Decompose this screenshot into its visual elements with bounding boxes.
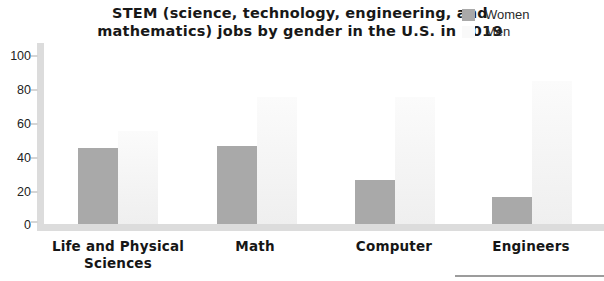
y-tick-mark <box>31 89 38 91</box>
y-tick-label: 100 <box>0 48 31 64</box>
men-swatch-icon <box>462 26 475 38</box>
x-label-math: Math <box>205 238 305 255</box>
men-bar <box>257 97 297 225</box>
women-bar <box>492 197 532 224</box>
legend-item-men: Men <box>462 23 530 40</box>
x-axis-baseline <box>37 224 604 231</box>
y-tick-label: 80 <box>0 82 31 98</box>
y-tick-mark <box>31 55 38 57</box>
women-bar <box>355 180 395 224</box>
y-tick-mark <box>31 191 38 193</box>
y-tick-label: 40 <box>0 150 31 166</box>
legend-item-women: Women <box>462 6 530 23</box>
x-label-engineers: Engineers <box>471 238 591 255</box>
y-tick-label: 60 <box>0 116 31 132</box>
x-label-computer: Computer <box>334 238 454 255</box>
men-bar <box>118 131 158 225</box>
y-tick-label: 20 <box>0 184 31 200</box>
x-label-life-and-physical-sciences: Life and Physical Sciences <box>46 238 190 272</box>
y-axis-line <box>37 43 44 231</box>
legend-label-women: Women <box>485 7 530 22</box>
men-bar <box>395 97 435 225</box>
legend: Women Men <box>462 6 530 40</box>
men-bar <box>532 81 572 224</box>
women-bar <box>217 146 257 224</box>
legend-label-men: Men <box>485 24 510 39</box>
women-swatch-icon <box>462 9 475 21</box>
stem-jobs-bar-chart: STEM (science, technology, engineering, … <box>0 0 604 281</box>
bottom-right-divider-line <box>455 275 604 277</box>
y-tick-mark <box>31 221 38 223</box>
y-tick-mark <box>31 123 38 125</box>
women-bar <box>78 148 118 225</box>
y-tick-label: 0 <box>0 217 31 233</box>
y-tick-mark <box>31 157 38 159</box>
